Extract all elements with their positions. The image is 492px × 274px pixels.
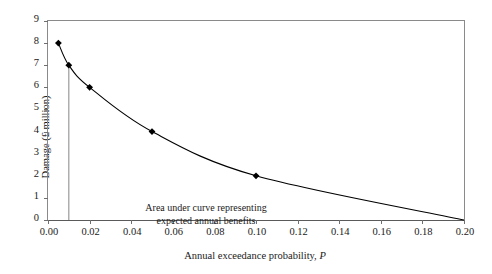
y-tick: 8 — [44, 43, 48, 44]
x-tick-label: 0.18 — [414, 227, 432, 238]
curve-svg — [48, 21, 464, 220]
plot-area: 0123456789 0.000.020.040.060.080.100.120… — [47, 20, 465, 221]
x-tick-label: 0.16 — [373, 227, 391, 238]
data-point-marker — [253, 172, 260, 179]
x-tick-label: 0.02 — [81, 227, 99, 238]
y-tick-label: 1 — [34, 191, 39, 202]
y-tick-label: 5 — [34, 102, 39, 113]
data-point-marker — [65, 62, 72, 69]
y-tick: 7 — [44, 65, 48, 66]
annotation-line-1: Area under curve representing — [106, 202, 306, 215]
y-tick-label: 8 — [34, 36, 39, 47]
y-tick: 4 — [44, 132, 48, 133]
y-tick-label: 6 — [34, 80, 39, 91]
area-under-curve-note: Area under curve representing expected a… — [106, 202, 306, 227]
y-tick: 9 — [44, 21, 48, 22]
y-tick-label: 4 — [34, 125, 39, 136]
data-point-markers — [55, 40, 259, 179]
x-tick-label: 0.00 — [40, 227, 58, 238]
damage-exceedance-probability-chart: Damage (£ million) 0123456789 0.000.020.… — [0, 0, 492, 274]
y-tick-label: 2 — [34, 169, 39, 180]
x-axis-title-text: Annual exceedance probability, — [184, 250, 319, 261]
x-axis-title-symbol: P — [319, 250, 325, 261]
x-tick-label: 0.08 — [206, 227, 224, 238]
annotation-line-2: expected annual benefits — [106, 215, 306, 228]
y-tick: 3 — [44, 154, 48, 155]
x-tick: 0.18 — [422, 220, 423, 224]
x-tick: 0.16 — [381, 220, 382, 224]
y-tick: 5 — [44, 109, 48, 110]
x-tick-label: 0.10 — [248, 227, 266, 238]
y-tick-label: 7 — [34, 58, 39, 69]
data-point-marker — [149, 128, 156, 135]
y-tick-label: 0 — [34, 213, 39, 224]
y-tick-label: 9 — [34, 14, 39, 25]
x-tick-label: 0.12 — [289, 227, 307, 238]
x-tick: 0.14 — [339, 220, 340, 224]
y-tick-label: 3 — [34, 147, 39, 158]
y-tick: 1 — [44, 198, 48, 199]
data-point-marker — [55, 40, 62, 47]
damage-curve-path — [58, 43, 464, 220]
x-tick-label: 0.20 — [456, 227, 474, 238]
x-tick-label: 0.06 — [165, 227, 183, 238]
x-axis-title: Annual exceedance probability, P — [47, 250, 463, 261]
x-tick: 0.02 — [90, 220, 91, 224]
x-tick: 0.00 — [48, 220, 49, 224]
y-tick: 2 — [44, 176, 48, 177]
x-tick: 0.20 — [464, 220, 465, 224]
x-tick-label: 0.14 — [331, 227, 349, 238]
x-tick-label: 0.04 — [123, 227, 141, 238]
y-tick: 6 — [44, 87, 48, 88]
damage-curve-line — [58, 43, 464, 220]
